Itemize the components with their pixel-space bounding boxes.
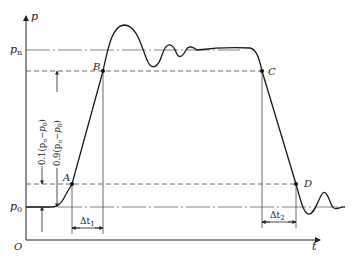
point-c	[260, 69, 264, 73]
point-b	[101, 69, 105, 73]
high-fraction-label: 0.9(pn−p0)	[52, 120, 63, 166]
point-a	[70, 182, 74, 186]
x-axis-label: t	[312, 240, 317, 253]
point-b-label: B	[92, 61, 100, 72]
origin-label: O	[14, 241, 22, 252]
point-d-label: D	[303, 178, 312, 189]
point-c-label: C	[268, 66, 276, 77]
point-a-label: A	[62, 172, 70, 183]
point-d	[294, 182, 298, 186]
dt1-label: Δt1	[80, 216, 95, 228]
low-fraction-label: 0.1(pn−p0)	[37, 119, 48, 165]
y-axis-label: p	[31, 10, 38, 23]
pn-label: pn	[10, 43, 22, 57]
pressure-waveform-diagram: p t O pn p0 A B C D Δt1 Δt2 0.1(pn−p0) 0…	[0, 0, 360, 258]
pressure-curve	[26, 25, 345, 214]
p0-label: p0	[10, 200, 22, 214]
dt2-label: Δt2	[270, 210, 285, 222]
